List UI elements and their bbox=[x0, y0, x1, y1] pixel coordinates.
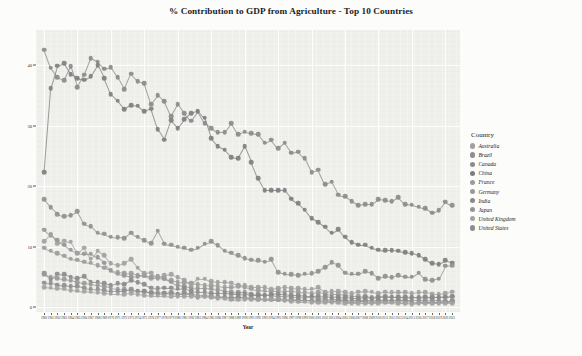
data-point bbox=[369, 290, 374, 295]
data-point bbox=[209, 239, 214, 244]
data-point bbox=[55, 64, 60, 69]
data-point bbox=[129, 230, 134, 235]
data-point bbox=[129, 271, 134, 276]
data-point bbox=[149, 106, 154, 111]
x-tick-mark bbox=[425, 313, 426, 315]
data-point bbox=[289, 151, 294, 156]
data-point bbox=[282, 140, 287, 145]
data-point bbox=[115, 75, 120, 80]
data-point bbox=[396, 301, 401, 306]
data-point bbox=[289, 285, 294, 290]
data-point bbox=[48, 285, 53, 290]
x-tick-label: 2001 bbox=[315, 316, 321, 320]
data-point bbox=[189, 111, 194, 116]
legend-item[interactable]: India bbox=[470, 196, 582, 205]
data-point bbox=[450, 301, 455, 306]
data-point bbox=[242, 297, 247, 302]
data-point bbox=[323, 300, 328, 305]
data-point bbox=[162, 285, 167, 290]
data-point bbox=[262, 297, 267, 302]
x-tick-mark bbox=[51, 313, 52, 315]
data-point bbox=[122, 261, 127, 266]
data-point bbox=[229, 285, 234, 290]
data-point bbox=[202, 276, 207, 281]
data-point bbox=[129, 278, 134, 283]
x-tick-label: 1969 bbox=[101, 316, 107, 320]
data-point bbox=[102, 76, 107, 81]
x-tick-label: 1985 bbox=[208, 316, 214, 320]
legend-item[interactable]: United States bbox=[470, 223, 582, 232]
data-point bbox=[369, 301, 374, 306]
plot-texture bbox=[36, 30, 460, 312]
data-point bbox=[296, 299, 301, 304]
gridline-vertical bbox=[178, 30, 179, 312]
data-point bbox=[276, 146, 281, 151]
legend-item[interactable]: China bbox=[470, 169, 582, 178]
data-point bbox=[403, 202, 408, 207]
data-point bbox=[450, 263, 455, 268]
legend-item[interactable]: Brazil bbox=[470, 151, 582, 160]
data-point bbox=[436, 262, 441, 267]
legend-item[interactable]: Japan bbox=[470, 205, 582, 214]
x-tick-label: 2020 bbox=[442, 316, 448, 320]
legend-swatch-icon bbox=[470, 198, 475, 203]
legend-item-label: Japan bbox=[478, 207, 492, 213]
legend-item[interactable]: United Kingdom bbox=[470, 214, 582, 223]
data-point bbox=[316, 220, 321, 225]
data-point bbox=[336, 192, 341, 197]
x-tick-label: 1973 bbox=[128, 316, 134, 320]
gridline-vertical bbox=[77, 30, 78, 312]
data-point bbox=[269, 137, 274, 142]
x-tick-label: 2019 bbox=[436, 316, 442, 320]
data-point bbox=[430, 278, 435, 283]
x-tick-mark bbox=[124, 313, 125, 315]
data-point bbox=[68, 239, 73, 244]
data-point bbox=[276, 188, 281, 193]
data-point bbox=[396, 273, 401, 278]
data-point bbox=[89, 261, 94, 266]
x-tick-mark bbox=[312, 313, 313, 315]
x-tick-label: 2002 bbox=[322, 316, 328, 320]
data-point bbox=[162, 241, 167, 246]
data-point bbox=[269, 257, 274, 262]
data-point bbox=[209, 295, 214, 300]
gridline-vertical bbox=[445, 30, 446, 312]
data-point bbox=[336, 300, 341, 305]
data-point bbox=[256, 132, 261, 137]
data-point bbox=[296, 286, 301, 291]
data-point bbox=[376, 247, 381, 252]
x-tick-mark bbox=[432, 313, 433, 315]
legend-item-label: United States bbox=[478, 225, 508, 231]
data-point bbox=[82, 289, 87, 294]
x-tick-mark bbox=[385, 313, 386, 315]
gridline-horizontal bbox=[36, 307, 460, 308]
data-point bbox=[95, 263, 100, 268]
data-point bbox=[236, 156, 241, 161]
data-point bbox=[109, 92, 114, 97]
data-point bbox=[196, 245, 201, 250]
data-point bbox=[390, 275, 395, 280]
legend-item[interactable]: Canada bbox=[470, 160, 582, 169]
data-point bbox=[309, 271, 314, 276]
data-point bbox=[209, 126, 214, 131]
x-tick-mark bbox=[71, 313, 72, 315]
y-tick-label: 20 bbox=[27, 184, 32, 189]
legend-item[interactable]: Australia bbox=[470, 142, 582, 151]
data-point bbox=[102, 253, 107, 258]
x-tick-label: 2017 bbox=[422, 316, 428, 320]
x-tick-label: 1996 bbox=[282, 316, 288, 320]
legend-item[interactable]: Germany bbox=[470, 187, 582, 196]
x-tick-label: 1964 bbox=[68, 316, 74, 320]
x-tick-mark bbox=[419, 313, 420, 315]
x-tick-mark bbox=[111, 313, 112, 315]
data-point bbox=[62, 277, 67, 282]
data-point bbox=[68, 64, 73, 69]
x-tick-label: 1976 bbox=[148, 316, 154, 320]
data-point bbox=[175, 294, 180, 299]
data-point bbox=[343, 235, 348, 240]
data-point bbox=[55, 286, 60, 291]
legend-item[interactable]: France bbox=[470, 178, 582, 187]
data-point bbox=[222, 130, 227, 135]
data-point bbox=[343, 301, 348, 306]
gridline-vertical bbox=[211, 30, 212, 312]
